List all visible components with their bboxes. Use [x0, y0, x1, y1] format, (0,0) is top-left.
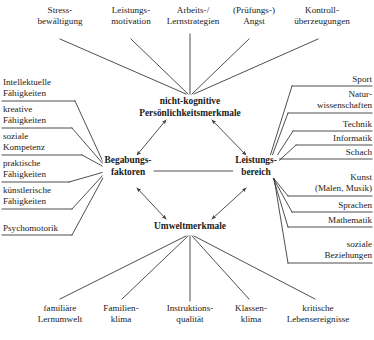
arrow-nichtkognitive-leistung: [212, 120, 246, 155]
link-bottom-1: [60, 236, 186, 299]
label-line: Technik: [252, 119, 372, 130]
left-item-soziale-kompetenz: soziale Kompetenz: [3, 131, 45, 154]
label-line: Psychomotorik: [3, 223, 58, 234]
link-left-6: [72, 176, 104, 235]
label-line: (Prüfungs-): [233, 5, 275, 16]
left-item-praktische-faehigkeiten: praktische Fähigkeiten: [3, 158, 46, 181]
label-line: Instruktions-: [167, 303, 213, 314]
label-line: Kontroll-: [294, 5, 350, 16]
right-item-technik: Technik: [252, 119, 372, 130]
label-line: (Malen, Musik): [252, 183, 372, 194]
label-line: Mathematik: [252, 215, 372, 226]
label-line: Umweltmerkmale: [154, 221, 226, 233]
label-line: praktische: [3, 158, 46, 169]
label-line: Persönlichkeitsmerkmale: [139, 108, 241, 120]
label-line: Fähigkeiten: [3, 196, 51, 207]
label-line: wissenschaften: [252, 100, 372, 111]
right-item-sprachen: Sprachen: [252, 200, 372, 211]
link-bottom-2: [122, 236, 188, 299]
label-line: bereich: [235, 167, 277, 179]
label-line: Sprachen: [252, 200, 372, 211]
label-line: kreative: [3, 104, 46, 115]
arrow-umwelt-leistung: [212, 188, 246, 219]
core-node-begabungsfaktoren: Begabungs- faktoren: [103, 155, 154, 178]
label-line: Natur-: [252, 89, 372, 100]
top-item-pruefungsangst: (Prüfungs-) Angst: [233, 5, 275, 28]
bottom-item-familiaere-lernumwelt: familiäre Lernumwelt: [38, 303, 82, 326]
label-line: familiäre: [38, 303, 82, 314]
hochbegabungsmodell-diagram: Stress- bewältigung Leistungs- motivatio…: [0, 0, 374, 340]
label-line: Lebensereignisse: [287, 314, 350, 325]
label-line: Beziehungen: [252, 250, 372, 261]
right-item-naturwissenschaften: Natur- wissenschaften: [252, 89, 372, 112]
label-line: motivation: [111, 16, 150, 27]
link-top-1: [60, 39, 186, 94]
label-line: Intellektuelle: [3, 77, 51, 88]
label-line: Sport: [252, 74, 372, 85]
right-item-informatik: Informatik: [252, 133, 372, 144]
label-line: faktoren: [105, 167, 152, 179]
label-line: Fähigkeiten: [3, 169, 46, 180]
left-item-kuenstlerische-faehigkeiten: künstlerische Fähigkeiten: [3, 185, 51, 208]
label-line: Kompetenz: [3, 142, 45, 153]
right-item-mathematik: Mathematik: [252, 215, 372, 226]
label-line: soziale: [3, 131, 45, 142]
label-line: kritische: [287, 303, 350, 314]
label-line: Arbeits-/: [167, 5, 220, 16]
label-line: Fähigkeiten: [3, 88, 51, 99]
link-left-5: [72, 174, 104, 209]
label-line: Familien-: [103, 303, 138, 314]
label-line: soziale: [252, 239, 372, 250]
bottom-item-kritische-lebensereignisse: kritische Lebensereignisse: [287, 303, 350, 326]
bottom-item-klassenklima: Klassen- klima: [235, 303, 267, 326]
top-item-stressbewaeltigung: Stress- bewältigung: [38, 5, 83, 28]
arrow-begabung-nichtkognitive: [137, 120, 166, 155]
label-line: Begabungs-: [105, 155, 152, 167]
label-line: Stress-: [38, 5, 83, 16]
label-line: Leistungs-: [235, 155, 277, 167]
left-item-psychomotorik: Psychomotorik: [3, 223, 58, 234]
label-line: Lernumwelt: [38, 314, 82, 325]
top-item-leistungsmotivation: Leistungs- motivation: [111, 5, 150, 28]
label-line: klima: [103, 314, 138, 325]
right-item-sport: Sport: [252, 74, 372, 85]
left-item-intellektuelle-faehigkeiten: Intellektuelle Fähigkeiten: [3, 77, 51, 100]
link-top-2: [131, 39, 188, 94]
right-item-soziale-beziehungen: soziale Beziehungen: [252, 239, 372, 262]
label-line: Lernstrategien: [167, 16, 220, 27]
diagram-connector-lines: [0, 0, 374, 340]
arrow-begabung-umwelt: [137, 188, 166, 219]
link-left-2: [72, 128, 104, 165]
core-node-nicht-kognitive-persoenlichkeitsmerkmale: nicht-kognitive Persönlichkeitsmerkmale: [137, 96, 243, 119]
link-top-4: [192, 39, 249, 94]
label-line: nicht-kognitive: [139, 96, 241, 108]
label-line: überzeugungen: [294, 16, 350, 27]
label-line: Fähigkeiten: [3, 115, 46, 126]
label-line: Informatik: [252, 133, 372, 144]
core-node-umweltmerkmale: Umweltmerkmale: [152, 221, 228, 233]
label-line: qualität: [167, 314, 213, 325]
left-item-kreative-faehigkeiten: kreative Fähigkeiten: [3, 104, 46, 127]
label-line: Klassen-: [235, 303, 267, 314]
label-line: künstlerische: [3, 185, 51, 196]
top-item-arbeits-lernstrategien: Arbeits-/ Lernstrategien: [167, 5, 220, 28]
label-line: Leistungs-: [111, 5, 150, 16]
label-line: bewältigung: [38, 16, 83, 27]
top-item-kontrollueberzeugungen: Kontroll- überzeugungen: [294, 5, 350, 28]
link-left-4: [69, 172, 104, 182]
bottom-item-instruktionsqualitaet: Instruktions- qualität: [167, 303, 213, 326]
core-node-leistungsbereich: Leistungs- bereich: [233, 155, 279, 178]
bottom-item-familienklima: Familien- klima: [103, 303, 138, 326]
label-line: klima: [235, 314, 267, 325]
link-bottom-4: [192, 236, 249, 299]
label-line: Angst: [233, 16, 275, 27]
